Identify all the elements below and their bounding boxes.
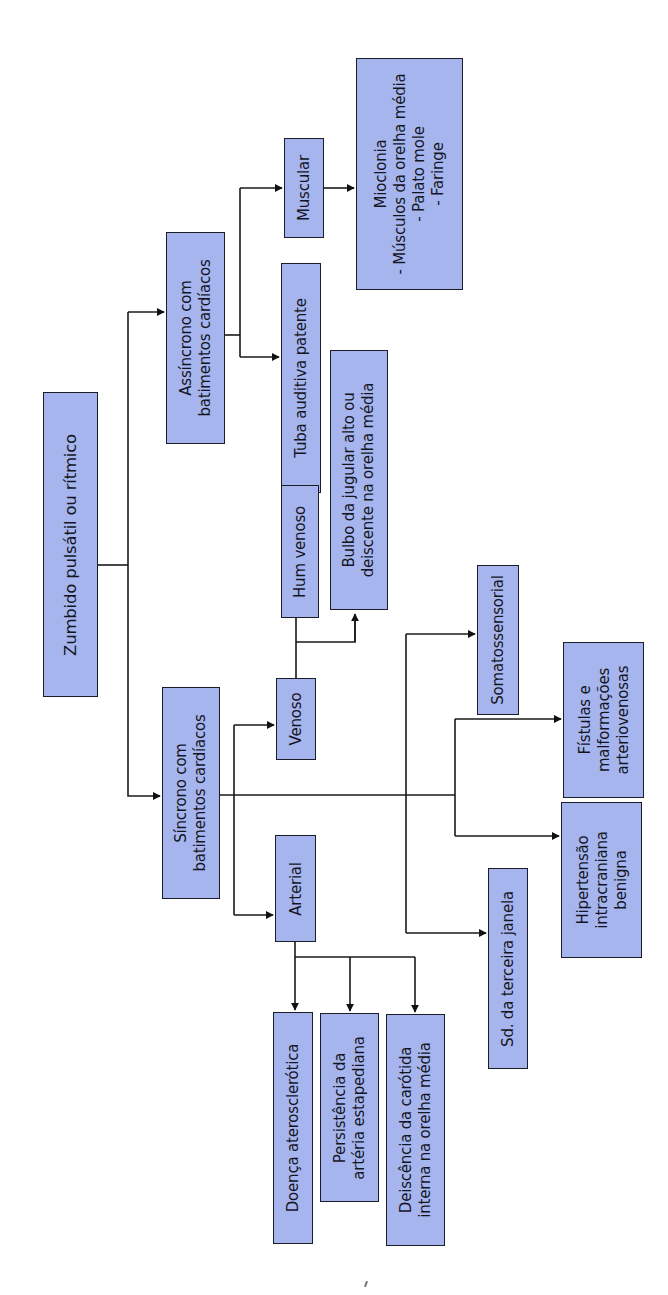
node-hipertensao: Hipertensão intracraniana benigna bbox=[561, 802, 642, 958]
node-sincrono: Síncrono com batimentos cardíacos bbox=[162, 687, 220, 899]
node-tuba-auditiva-label: Tuba auditiva patente bbox=[292, 298, 311, 457]
node-muscular-label: Muscular bbox=[295, 155, 314, 221]
node-arterial-label: Arterial bbox=[286, 862, 305, 916]
node-fistulas-label: Fístulas e malformações arteriovenosas bbox=[575, 666, 632, 775]
node-terceira-janela-label: Sd. da terceira janela bbox=[499, 891, 518, 1047]
node-assincrono-label: Assíncrono com batimentos cardíacos bbox=[177, 259, 215, 416]
node-root: Zumbido pulsátil ou rítmico bbox=[43, 392, 98, 697]
node-terceira-janela: Sd. da terceira janela bbox=[488, 868, 528, 1069]
node-hipertensao-label: Hipertensão intracraniana benigna bbox=[573, 831, 630, 929]
node-sincrono-label: Síncrono com batimentos cardíacos bbox=[172, 714, 210, 871]
node-mioclonia-label: Mioclonia - Músculos da orelha média - P… bbox=[372, 73, 448, 274]
node-bulbo-jugular-label: Bulbo da jugular alto ou deiscente na or… bbox=[340, 383, 378, 578]
flowchart-canvas: Zumbido pulsátil ou rítmico Assíncrono c… bbox=[0, 0, 668, 1295]
node-bulbo-jugular: Bulbo da jugular alto ou deiscente na or… bbox=[330, 350, 388, 610]
node-hum-venoso: Hum venoso bbox=[281, 485, 319, 618]
node-mioclonia: Mioclonia - Músculos da orelha média - P… bbox=[356, 58, 463, 290]
node-root-label: Zumbido pulsátil ou rítmico bbox=[61, 434, 81, 656]
node-somatossensorial: Somatossensorial bbox=[477, 565, 519, 715]
node-doenca-aterosclerotica: Doença aterosclerótica bbox=[273, 1012, 313, 1244]
node-assincrono: Assíncrono com batimentos cardíacos bbox=[166, 232, 225, 444]
node-venoso-label: Venoso bbox=[287, 693, 306, 746]
node-somatossensorial-label: Somatossensorial bbox=[489, 575, 508, 704]
node-tuba-auditiva: Tuba auditiva patente bbox=[281, 263, 321, 493]
node-venoso: Venoso bbox=[276, 678, 316, 760]
node-muscular: Muscular bbox=[284, 138, 324, 238]
node-persistencia-arteria-label: Persistência da artéria estapediana bbox=[331, 1036, 369, 1179]
node-hum-venoso-label: Hum venoso bbox=[291, 506, 310, 598]
node-arterial: Arterial bbox=[275, 835, 316, 942]
node-doenca-aterosclerotica-label: Doença aterosclerótica bbox=[284, 1044, 303, 1213]
node-deiscencia-carotida-label: Deiscência da carótida interna na orelha… bbox=[397, 1042, 435, 1218]
node-deiscencia-carotida: Deiscência da carótida interna na orelha… bbox=[386, 1014, 445, 1246]
node-persistencia-arteria: Persistência da artéria estapediana bbox=[320, 1013, 379, 1202]
node-fistulas: Fístulas e malformações arteriovenosas bbox=[563, 642, 644, 798]
